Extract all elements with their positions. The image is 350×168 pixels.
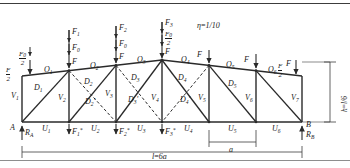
bottom-load-arrows: [69, 124, 162, 134]
load-F1-star: F1*: [72, 128, 82, 136]
load-left-F0-half: F02: [19, 50, 26, 67]
height-dimension-label: h=l/6: [341, 96, 349, 112]
reaction-RA: RA: [25, 129, 33, 137]
height-var: h: [340, 108, 349, 112]
load-left-F-half: F2: [6, 66, 10, 83]
member-D1: D1: [34, 84, 43, 92]
member-U5: U5: [228, 125, 237, 133]
load-F2: F2: [119, 24, 127, 32]
load-F3: F3: [165, 19, 173, 27]
top-load-arrows: [30, 22, 296, 74]
panel-dimension-label: a: [229, 146, 233, 154]
member-O4: O4: [181, 56, 190, 64]
member-D4: D4: [178, 74, 187, 82]
efficiency-ratio-label: η=1/10: [197, 22, 220, 30]
member-D2: D2: [84, 78, 93, 86]
member-U1: U1: [42, 125, 51, 133]
height-equals: =: [340, 104, 349, 108]
member-V6: V6: [245, 94, 253, 102]
load-F-a: F: [72, 58, 77, 66]
member-O5: O5: [226, 61, 235, 69]
load-F0-a: F0: [72, 44, 80, 52]
member-V3: V3: [105, 90, 113, 98]
vertical-members: [22, 60, 302, 122]
member-D2-prime: D2': [85, 98, 95, 106]
load-F-d: F: [244, 56, 249, 64]
support-node-B: B: [306, 121, 311, 129]
load-right-F-half: F2: [278, 62, 282, 79]
member-O6: O6: [268, 66, 277, 74]
member-V1: V1: [11, 92, 19, 100]
load-F1: F1: [72, 28, 80, 36]
reaction-RB: RB: [306, 131, 314, 139]
truss-drawing: [0, 0, 350, 168]
support-node-A: A: [10, 124, 15, 132]
member-U2: U2: [91, 125, 100, 133]
load-F-c: F: [197, 51, 202, 59]
load-F0-half-apex: F02: [165, 30, 172, 47]
member-V4: V4: [151, 94, 159, 102]
load-F3-star: F3*: [165, 128, 175, 136]
load-F-apex: F: [165, 48, 170, 56]
height-value: l/6: [340, 96, 349, 104]
member-U6: U6: [272, 125, 281, 133]
member-V2: V2: [58, 94, 66, 102]
span-value: 6a: [159, 152, 167, 161]
member-O2: O2: [90, 62, 99, 70]
member-U4: U4: [184, 125, 193, 133]
member-O1: O1: [44, 66, 53, 74]
member-O3: O3: [137, 56, 146, 64]
load-F2-star: F2*: [119, 128, 129, 136]
member-D3-prime: D3': [128, 96, 138, 104]
span-dimension-label: l=6a: [152, 153, 167, 161]
member-U3: U3: [137, 125, 146, 133]
load-F-b: F: [119, 53, 124, 61]
member-V7: V7: [291, 94, 299, 102]
height-dimension: [302, 62, 336, 122]
member-D3: D3: [131, 74, 140, 82]
member-D4-prime: D4': [180, 96, 190, 104]
member-V5: V5: [198, 94, 206, 102]
top-load-arrow-segments: [30, 22, 162, 56]
truss-figure: η=1/10 F2 F02 F1 F0 F F2 F0 F F3 F02 F F…: [0, 0, 350, 168]
member-D5: D5: [228, 80, 237, 88]
eta-value: 1/10: [205, 21, 219, 30]
load-F-e: F: [286, 60, 291, 68]
load-F0-b: F0: [119, 40, 127, 48]
